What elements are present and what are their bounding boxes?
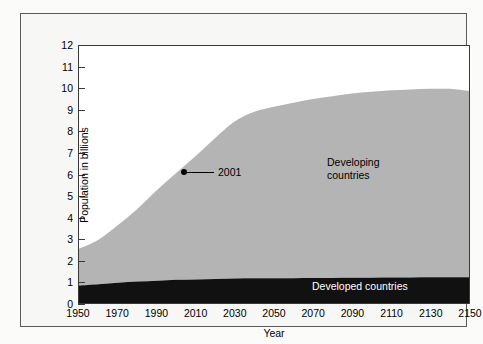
x-tick-label: 1950 [66, 308, 89, 319]
y-axis-ticks: 0123456789101112 [78, 45, 470, 304]
y-tick-label: 10 [61, 83, 73, 94]
series-label-developing-line1: Developing [327, 156, 380, 169]
y-tick-mark [78, 67, 85, 68]
x-tick-label: 1990 [145, 308, 168, 319]
x-tick-label: 1970 [106, 308, 129, 319]
x-tick-label: 2030 [223, 308, 246, 319]
y-tick-label: 12 [61, 40, 73, 51]
figure: 0123456789101112 Population in billions … [0, 0, 483, 344]
x-tick-label: 2150 [458, 308, 481, 319]
y-tick-mark [78, 261, 85, 262]
x-tick-label: 2130 [419, 308, 442, 319]
figure-border: 0123456789101112 Population in billions … [20, 13, 467, 327]
series-label-developed: Developed countries [312, 281, 408, 292]
x-tick-label: 2090 [341, 308, 364, 319]
x-axis-title: Year [263, 327, 284, 339]
y-tick-mark [78, 88, 85, 89]
x-tick-label: 2050 [262, 308, 285, 319]
y-tick-label: 11 [62, 61, 73, 72]
y-tick-label: 1 [67, 277, 73, 288]
y-axis-title: Population in billions [78, 127, 90, 223]
x-tick-label: 2110 [380, 308, 403, 319]
y-tick-label: 3 [67, 234, 73, 245]
series-label-developing-line2: countries [327, 169, 380, 182]
y-tick-label: 9 [67, 105, 73, 116]
x-tick-label: 2070 [302, 308, 325, 319]
x-tick-label: 2010 [184, 308, 207, 319]
plot-area: 0123456789101112 Population in billions … [78, 45, 470, 304]
y-tick-label: 2 [67, 256, 73, 267]
y-tick-label: 8 [67, 126, 73, 137]
series-label-developing: Developing countries [327, 156, 380, 182]
y-tick-mark [78, 304, 85, 305]
y-tick-label: 4 [67, 212, 73, 223]
y-tick-label: 5 [67, 191, 73, 202]
y-tick-mark [78, 110, 85, 111]
y-tick-mark [78, 45, 85, 46]
y-tick-mark [78, 239, 85, 240]
y-tick-mark [78, 282, 85, 283]
y-tick-label: 6 [67, 169, 73, 180]
y-tick-label: 7 [67, 148, 73, 159]
